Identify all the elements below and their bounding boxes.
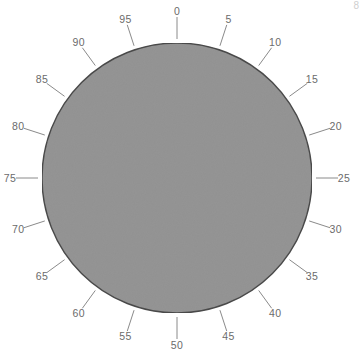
- tick-label-0: 0: [174, 5, 180, 17]
- tick-label-5: 5: [225, 13, 231, 25]
- dial-figure: 05101520253035404550556065707580859095 8: [0, 0, 363, 358]
- tick-mark-15: [289, 83, 307, 96]
- tick-label-85: 85: [36, 73, 48, 85]
- tick-mark-45: [220, 310, 227, 331]
- tick-label-15: 15: [306, 73, 318, 85]
- tick-mark-95: [127, 25, 134, 46]
- tick-label-80: 80: [12, 120, 24, 132]
- tick-label-10: 10: [269, 36, 281, 48]
- tick-label-90: 90: [73, 36, 85, 48]
- dial-svg: 05101520253035404550556065707580859095: [0, 0, 363, 358]
- tick-label-95: 95: [119, 13, 131, 25]
- tick-label-20: 20: [330, 120, 342, 132]
- tick-mark-60: [82, 290, 95, 308]
- tick-mark-35: [289, 260, 307, 273]
- tick-label-55: 55: [119, 330, 131, 342]
- tick-mark-70: [24, 221, 45, 228]
- tick-mark-80: [24, 128, 45, 135]
- tick-mark-55: [127, 310, 134, 331]
- tick-label-30: 30: [330, 223, 342, 235]
- tick-label-45: 45: [222, 330, 234, 342]
- tick-label-70: 70: [12, 223, 24, 235]
- tick-mark-85: [47, 83, 65, 96]
- tick-label-35: 35: [306, 270, 318, 282]
- tick-mark-20: [309, 128, 330, 135]
- dial-disc: [42, 43, 312, 313]
- tick-mark-40: [259, 290, 272, 308]
- tick-label-75: 75: [4, 172, 16, 184]
- tick-mark-30: [309, 221, 330, 228]
- corner-mark: 8: [353, 0, 359, 11]
- tick-mark-90: [82, 48, 95, 66]
- tick-mark-65: [47, 260, 65, 273]
- tick-label-25: 25: [338, 172, 350, 184]
- tick-mark-10: [259, 48, 272, 66]
- tick-mark-5: [220, 25, 227, 46]
- tick-label-40: 40: [269, 307, 281, 319]
- tick-label-60: 60: [73, 307, 85, 319]
- tick-label-50: 50: [171, 339, 183, 351]
- tick-label-65: 65: [36, 270, 48, 282]
